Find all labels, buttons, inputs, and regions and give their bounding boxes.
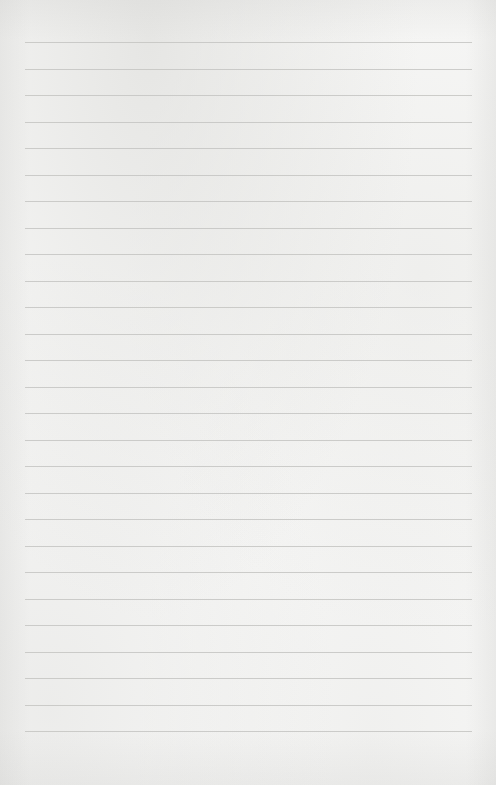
ruled-line (25, 572, 472, 573)
ruled-line (25, 652, 472, 653)
ruled-line (25, 678, 472, 679)
ruled-line (25, 307, 472, 308)
ruled-line (25, 281, 472, 282)
ruled-line (25, 413, 472, 414)
ruled-line (25, 360, 472, 361)
ruled-line (25, 546, 472, 547)
ruled-line (25, 201, 472, 202)
ruled-line (25, 493, 472, 494)
ruled-line (25, 625, 472, 626)
ruled-line (25, 466, 472, 467)
ruled-line (25, 705, 472, 706)
ruled-line (25, 95, 472, 96)
ruled-line (25, 228, 472, 229)
ruled-line (25, 148, 472, 149)
ruled-line (25, 599, 472, 600)
ruled-line (25, 519, 472, 520)
ruled-line (25, 440, 472, 441)
ruled-line (25, 122, 472, 123)
ruled-line (25, 42, 472, 43)
ruled-line (25, 175, 472, 176)
lined-paper-sheet (0, 0, 496, 785)
ruled-line (25, 387, 472, 388)
ruled-line (25, 731, 472, 732)
ruled-line (25, 334, 472, 335)
ruled-line (25, 69, 472, 70)
ruled-line (25, 254, 472, 255)
